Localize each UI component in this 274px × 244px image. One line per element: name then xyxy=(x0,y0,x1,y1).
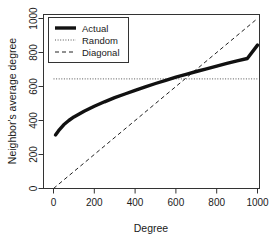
x-axis-tick-labels: 0 200 400 600 800 1000 xyxy=(51,197,269,208)
neighbor-degree-line-chart: 0 200 400 600 800 1000 0 200 400 600 800… xyxy=(0,0,274,244)
x-tick-label-800: 800 xyxy=(208,197,225,208)
y-tick-label-800: 800 xyxy=(28,44,39,61)
y-tick-label-400: 400 xyxy=(28,112,39,129)
y-tick-label-0: 0 xyxy=(28,185,39,191)
chart-legend: Actual Random Diagonal xyxy=(49,18,129,63)
x-tick-label-600: 600 xyxy=(168,197,185,208)
y-tick-label-200: 200 xyxy=(28,146,39,163)
y-tick-label-600: 600 xyxy=(28,78,39,95)
y-axis-title: Neighbor's average degree xyxy=(6,38,18,164)
x-axis-title: Degree xyxy=(134,222,169,234)
x-axis-ticks xyxy=(54,189,258,194)
legend-label-diagonal: Diagonal xyxy=(82,47,120,58)
x-tick-label-400: 400 xyxy=(127,197,144,208)
legend-label-random: Random xyxy=(82,35,118,46)
legend-label-actual: Actual xyxy=(82,23,108,34)
y-axis-ticks xyxy=(39,19,44,189)
y-tick-label-1000: 1000 xyxy=(28,7,39,30)
x-tick-label-0: 0 xyxy=(51,197,57,208)
x-tick-label-1000: 1000 xyxy=(246,197,269,208)
x-tick-label-200: 200 xyxy=(86,197,103,208)
y-axis-tick-labels: 0 200 400 600 800 1000 xyxy=(28,7,39,191)
chart-figure: 0 200 400 600 800 1000 0 200 400 600 800… xyxy=(0,0,274,244)
